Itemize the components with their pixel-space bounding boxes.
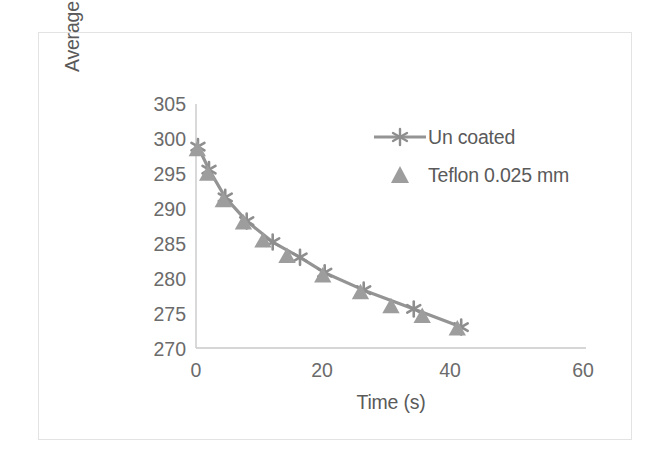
chart-figure: Average Surface Temperature (K) Time (s)…: [0, 0, 668, 469]
legend-item-teflon[interactable]: Teflon 0.025 mm: [372, 156, 622, 194]
legend-label-teflon: Teflon 0.025 mm: [428, 164, 569, 187]
legend-label-un-coated: Un coated: [428, 126, 515, 149]
plot-area: [0, 0, 668, 469]
legend-item-un-coated[interactable]: Un coated: [372, 118, 622, 156]
data-point-asterisk: [407, 301, 420, 316]
chart-legend: Un coated Teflon 0.025 mm: [372, 118, 622, 194]
data-point-triangle: [382, 298, 399, 313]
triangle-marker-icon: [372, 162, 428, 188]
asterisk-line-marker-icon: [372, 124, 428, 150]
